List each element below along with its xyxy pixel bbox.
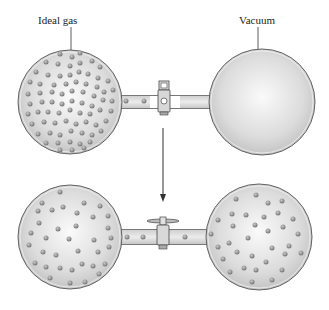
right-bulb-final	[206, 184, 312, 290]
process-arrow-icon	[160, 128, 166, 202]
right-bulb-vacuum	[209, 49, 315, 155]
valve-closed-icon	[158, 81, 170, 115]
final-apparatus	[18, 184, 312, 290]
initial-apparatus	[18, 49, 315, 155]
gas-expansion-diagram	[0, 0, 329, 310]
